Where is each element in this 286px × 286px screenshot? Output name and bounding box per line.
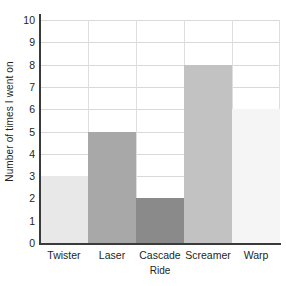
x-tick-label-twister: Twister	[40, 247, 88, 263]
bar-twister[interactable]	[40, 176, 88, 243]
plot-area	[40, 20, 280, 243]
y-tick-label: 10	[23, 15, 35, 26]
x-tick-label-warp: Warp	[232, 247, 280, 263]
y-axis-title: Number of times I went on	[0, 0, 18, 243]
y-tick-label: 0	[29, 238, 35, 249]
bars	[40, 20, 280, 243]
y-tick-label: 5	[29, 126, 35, 137]
x-axis-tick-labels: TwisterLaserCascadeScreamerWarp	[40, 247, 280, 265]
bar-chart-figure: Number of times I went on 012345678910 T…	[0, 0, 286, 286]
x-axis-spine	[39, 243, 281, 245]
bar-cascade[interactable]	[136, 198, 184, 243]
y-tick-label: 3	[29, 171, 35, 182]
y-tick-label: 9	[29, 37, 35, 48]
y-axis-title-text: Number of times I went on	[4, 61, 15, 181]
y-axis-tick-labels: 012345678910	[18, 0, 38, 250]
y-tick-label: 7	[29, 82, 35, 93]
y-tick-label: 2	[29, 193, 35, 204]
bar-warp[interactable]	[232, 109, 280, 243]
x-tick-label-laser: Laser	[88, 247, 136, 263]
x-tick-label-screamer: Screamer	[184, 247, 232, 263]
x-axis-title: Ride	[40, 265, 280, 276]
y-tick-label: 4	[29, 149, 35, 160]
bar-screamer[interactable]	[184, 65, 232, 243]
y-tick-label: 8	[29, 59, 35, 70]
x-tick-label-cascade: Cascade	[136, 247, 184, 263]
y-tick-label: 6	[29, 104, 35, 115]
y-tick-label: 1	[29, 215, 35, 226]
bar-laser[interactable]	[88, 132, 136, 244]
y-axis-spine	[39, 14, 41, 245]
